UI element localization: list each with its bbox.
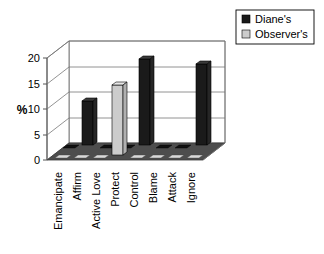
y-tick-label-5: 5 (34, 129, 40, 141)
bar-diane-affirm (82, 98, 97, 145)
y-tick-label-0: 0 (34, 154, 40, 166)
legend-swatch-diane (242, 15, 250, 23)
legend-label-diane: Diane's (255, 13, 292, 25)
y-tick-label-20: 20 (28, 52, 40, 64)
x-label-protect: Protect (109, 172, 121, 207)
x-label-ignore: Ignore (185, 172, 197, 203)
x-label-control: Control (128, 172, 140, 207)
bar-observer-protect (112, 82, 127, 155)
bar-chart-svg: 20 15 10 5 0 % (0, 0, 324, 254)
chart-container: 20 15 10 5 0 % (0, 0, 324, 254)
chart-legend: Diane's Observer's (236, 10, 314, 44)
legend-item-diane[interactable]: Diane's (242, 13, 292, 25)
y-tick-label-10: 10 (28, 103, 40, 115)
y-tick-label-15: 15 (28, 78, 40, 90)
x-label-emancipate: Emancipate (52, 172, 64, 230)
bar-diane-control (139, 56, 154, 145)
legend-label-observer: Observer's (255, 28, 308, 40)
y-axis-title: % (17, 103, 28, 117)
legend-swatch-observer (242, 30, 250, 38)
x-label-attack: Attack (166, 172, 178, 203)
x-label-active-love: Active Love (90, 172, 102, 229)
x-label-blame: Blame (147, 172, 159, 203)
x-label-affirm: Affirm (71, 172, 83, 201)
bar-diane-ignore (196, 61, 211, 145)
